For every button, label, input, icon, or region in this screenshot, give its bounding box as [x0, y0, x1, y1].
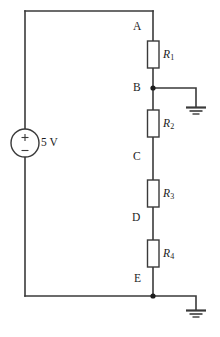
wire-e-to-ground [153, 296, 196, 310]
node-label-a: A [133, 21, 141, 33]
resistor-symbol-r3 [148, 180, 160, 207]
resistor-label-r2-letter: R [163, 117, 170, 129]
resistor-label-r3-letter: R [163, 187, 170, 199]
resistor-label-r3: R3 [163, 188, 174, 201]
ground-branch-b [153, 88, 206, 114]
resistor-label-r1: R1 [163, 49, 174, 62]
resistor-symbol-r1 [148, 41, 160, 68]
resistor-label-r1-subscript: 1 [170, 53, 174, 62]
resistor-symbol-r2 [148, 110, 160, 137]
resistor-label-r2-subscript: 2 [170, 122, 174, 131]
node-label-e: E [134, 273, 141, 285]
voltage-source-label: 5 V [41, 137, 58, 149]
resistor-label-r4: R4 [163, 248, 174, 261]
resistor-label-r4-letter: R [163, 247, 170, 259]
ground-branch-e [153, 296, 206, 317]
node-label-b: B [133, 82, 141, 94]
circuit-diagram: A B C D E R1 R2 R3 R4 5 V [0, 0, 220, 337]
resistor-label-r2: R2 [163, 118, 174, 131]
resistor-label-r3-subscript: 3 [170, 192, 174, 201]
earth-ground-icon-b [186, 108, 206, 115]
node-label-d: D [132, 212, 140, 224]
resistor-label-r1-letter: R [163, 48, 170, 60]
figure-caption [8, 331, 216, 337]
junction-dot-e [150, 293, 155, 298]
wire-b-to-ground [153, 88, 196, 107]
node-label-c: C [133, 151, 141, 163]
resistor-symbol-r4 [148, 240, 160, 267]
resistor-label-r4-subscript: 4 [170, 252, 174, 261]
voltage-source-symbol [11, 129, 39, 157]
junction-dot-b [150, 85, 155, 90]
circuit-schematic-canvas [0, 0, 220, 337]
earth-ground-icon-e [186, 311, 206, 318]
